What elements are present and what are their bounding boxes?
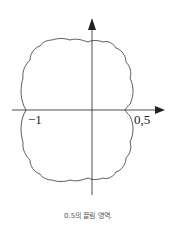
y-axis-arrow-icon <box>88 18 96 30</box>
figure-caption: 0.5의 끌림 영역. <box>0 210 176 220</box>
x-axis-arrow-icon <box>155 106 165 114</box>
x-label-half: 0,5 <box>134 112 150 128</box>
x-label-minus-one: −1 <box>28 112 42 128</box>
